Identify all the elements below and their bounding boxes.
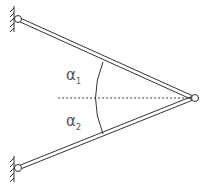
top-wall-support-icon (10, 6, 14, 32)
diagram-graphics (0, 0, 210, 196)
bottom-wall-pin-icon (15, 165, 22, 172)
joint-pin-icon (192, 95, 199, 102)
upper-bar (18, 17, 193, 100)
lower-bar (18, 96, 193, 170)
truss-diagram: α1 α2 (0, 0, 210, 196)
top-wall-pin-icon (15, 16, 22, 23)
bottom-wall-support-icon (10, 156, 14, 182)
angle-label-alpha1: α1 (66, 68, 81, 86)
angle-label-alpha2: α2 (66, 114, 81, 132)
